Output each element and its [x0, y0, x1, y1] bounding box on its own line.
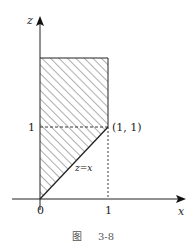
- x-axis-label: x: [178, 205, 185, 218]
- figure-caption-number: 3-8: [98, 231, 114, 242]
- z-axis-label: z: [26, 14, 33, 27]
- diagram-canvas: z x 0 1 1 (1, 1) z=x 图 3-8: [0, 0, 193, 247]
- line-label: z=x: [74, 163, 92, 173]
- point-label: (1, 1): [112, 121, 142, 134]
- x-tick-label: 1: [105, 204, 112, 217]
- origin-label: 0: [37, 204, 44, 217]
- z-tick-label: 1: [28, 121, 35, 134]
- shaded-region: [40, 58, 108, 199]
- figure-caption-prefix: 图: [72, 231, 82, 242]
